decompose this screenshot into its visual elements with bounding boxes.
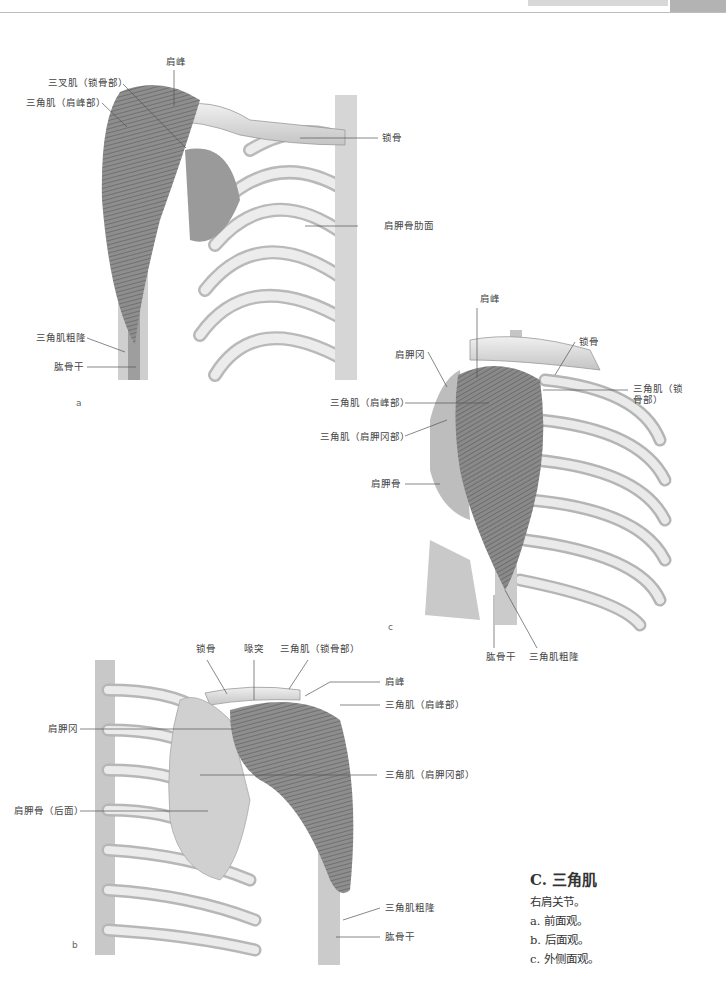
label-a-deltoid-clavicular: 三叉肌（锁骨部） [48,77,128,89]
label-c-deltoid-clavicular-2: 骨部） [633,394,663,406]
label-c-deltoid-spinal: 三角肌（肩胛冈部） [320,431,410,443]
caption-line: c. 外侧面观。 [530,950,599,969]
caption-line: 右肩关节。 [530,893,599,912]
label-b-deltoid-spinal: 三角肌（肩胛冈部） [385,769,475,781]
label-a-scapula-costal: 肩胛骨肋面 [384,220,434,232]
caption-line: a. 前面观。 [530,912,599,931]
figure-caption: C. 三角肌 右肩关节。 a. 前面观。 b. 后面观。 c. 外侧面观。 [530,868,599,969]
panel-letter-b: b [72,940,78,950]
label-b-deltoid-acromial: 三角肌（肩峰部） [385,699,465,711]
caption-title: C. 三角肌 [530,868,599,889]
label-b-humerus-shaft: 肱骨干 [385,931,415,943]
figure-b-illustration [95,660,353,965]
panel-letter-c: c [388,622,393,632]
label-b-acromion: 肩峰 [385,676,405,688]
panel-letter-a: a [76,398,82,408]
label-b-scapula-posterior: 肩胛骨（后面） [14,805,84,817]
label-c-acromion: 肩峰 [480,293,500,305]
label-c-deltoid-tuberosity: 三角肌粗隆 [529,651,579,663]
caption-line: b. 后面观。 [530,931,599,950]
label-a-acromion: 肩峰 [166,56,186,68]
label-a-humerus-shaft: 肱骨干 [54,361,84,373]
label-a-clavicle: 锁骨 [382,132,402,144]
label-c-scapula: 肩胛骨 [371,478,401,490]
label-b-deltoid-tuberosity: 三角肌粗隆 [385,902,435,914]
figure-c-illustration [425,330,665,625]
label-b-deltoid-clavicular: 三角肌（锁骨部） [280,643,360,655]
figure-a-illustration [102,85,357,380]
label-b-scapular-spine: 肩胛冈 [48,723,78,735]
label-b-coracoid: 喙突 [244,643,264,655]
label-a-deltoid-acromial: 三角肌（肩峰部） [26,97,106,109]
label-c-clavicle: 锁骨 [579,336,599,348]
label-a-deltoid-tuberosity: 三角肌粗隆 [36,332,86,344]
label-b-clavicle: 锁骨 [196,643,216,655]
label-c-scapular-spine: 肩胛冈 [395,349,425,361]
anatomical-illustrations [0,0,726,1004]
label-c-humerus-shaft: 肱骨干 [486,651,516,663]
label-c-deltoid-acromial: 三角肌（肩峰部） [330,397,410,409]
